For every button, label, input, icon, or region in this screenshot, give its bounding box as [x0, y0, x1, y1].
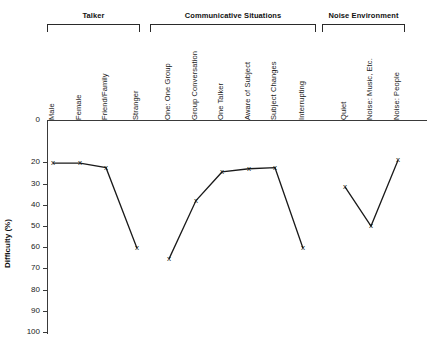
data-point-one-one-group: x: [167, 255, 171, 263]
data-point-noise-music-etc: x: [369, 222, 373, 230]
data-point-friend-family: x: [104, 164, 108, 172]
series-line-talker: [53, 163, 137, 248]
data-point-subject-changes: x: [273, 164, 277, 172]
chart-canvas: Talker Communicative Situations Noise En…: [0, 0, 433, 353]
data-point-interrupting: x: [301, 244, 305, 252]
data-point-one-talker: x: [220, 168, 224, 176]
data-point-quiet: x: [343, 183, 347, 191]
data-point-noise-people: x: [396, 156, 400, 164]
data-point-female: x: [78, 159, 82, 167]
data-point-stranger: x: [135, 244, 139, 252]
series-line-communicative-situations: [169, 168, 303, 259]
data-point-male: x: [51, 159, 55, 167]
data-point-group-conversation: x: [194, 197, 198, 205]
data-point-aware-of-subject: x: [247, 165, 251, 173]
series-line-noise-environment: [345, 160, 398, 226]
series-lines: [0, 0, 433, 353]
